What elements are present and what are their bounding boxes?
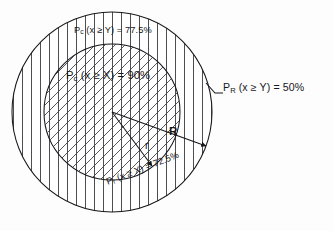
radius-inner-label: r (145, 140, 149, 151)
outer-right-label-value: 50% (283, 81, 305, 93)
outer-annulus-label: Pc (x ≥ Y) = 77.5% (74, 26, 152, 36)
inner-center-label-value: 90% (127, 69, 150, 81)
inner-center-label-expression: (x ≥ X) = (78, 69, 128, 81)
inner-center-label: Pc (x ≥ X) = 90% (66, 70, 150, 83)
outer-annulus-label-value: 77.5% (125, 25, 152, 35)
inner-center-label-prefix: P (66, 69, 74, 81)
radius-outer-label: R (169, 126, 177, 138)
outer-annulus-label-expression: (x ≥ Y) = (84, 25, 125, 35)
outer-right-label-expression: (x ≥ Y) = (236, 81, 283, 93)
diagram-canvas (0, 0, 333, 231)
probability-circles-diagram: Pc (x ≥ Y) = 77.5% Pc (x ≥ X) = 90% PR (… (0, 0, 333, 231)
outer-right-label: PR (x ≥ Y) = 50% (223, 82, 304, 94)
